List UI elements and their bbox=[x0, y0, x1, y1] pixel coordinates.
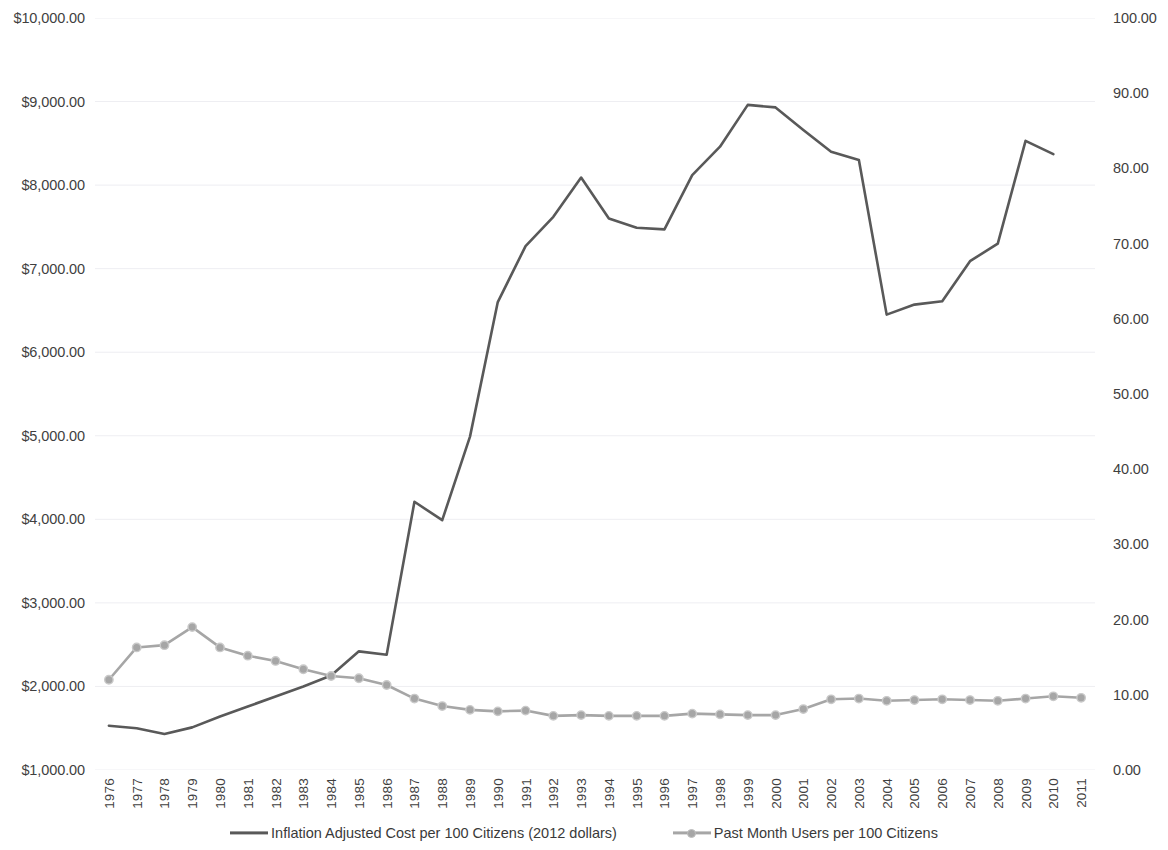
y-axis-right-tick-label: 20.00 bbox=[1113, 612, 1168, 628]
x-axis-tick-label: 1982 bbox=[269, 778, 284, 809]
x-axis-tick-label: 1981 bbox=[241, 778, 256, 809]
x-axis-tick-label: 2009 bbox=[1019, 778, 1034, 809]
data-point-marker bbox=[827, 695, 835, 703]
x-axis-tick-label: 1978 bbox=[157, 778, 172, 809]
x-axis-tick-label: 1989 bbox=[463, 778, 478, 809]
data-point-marker bbox=[521, 706, 529, 714]
series-lines bbox=[95, 18, 1095, 770]
x-axis-tick-label: 1992 bbox=[546, 778, 561, 809]
data-point-marker bbox=[105, 676, 113, 684]
y-axis-right-tick-label: 90.00 bbox=[1113, 85, 1168, 101]
y-axis-right-tick-label: 10.00 bbox=[1113, 687, 1168, 703]
data-point-marker bbox=[355, 674, 363, 682]
y-axis-left-tick-label: $8,000.00 bbox=[0, 177, 85, 193]
y-axis-right-tick-label: 100.00 bbox=[1113, 10, 1168, 26]
x-axis-tick-label: 2002 bbox=[824, 778, 839, 809]
data-point-marker bbox=[938, 695, 946, 703]
x-axis-tick-label: 2007 bbox=[963, 778, 978, 809]
legend-label: Inflation Adjusted Cost per 100 Citizens… bbox=[271, 826, 617, 841]
data-point-marker bbox=[688, 709, 696, 717]
data-point-marker bbox=[1021, 694, 1029, 702]
data-point-marker bbox=[882, 697, 890, 705]
x-axis-tick-label: 1988 bbox=[435, 778, 450, 809]
x-axis-tick-label: 1995 bbox=[630, 778, 645, 809]
data-point-marker bbox=[1049, 692, 1057, 700]
data-point-marker bbox=[188, 623, 196, 631]
x-axis-tick-label: 1983 bbox=[296, 778, 311, 809]
data-point-marker bbox=[605, 712, 613, 720]
series-line-0 bbox=[109, 105, 1053, 734]
legend-item-0[interactable]: Inflation Adjusted Cost per 100 Citizens… bbox=[230, 826, 617, 841]
x-axis-tick-label: 2004 bbox=[880, 778, 895, 809]
y-axis-left-tick-label: $9,000.00 bbox=[0, 94, 85, 110]
x-axis-tick-label: 1999 bbox=[741, 778, 756, 809]
data-point-marker bbox=[494, 707, 502, 715]
data-point-marker bbox=[632, 712, 640, 720]
y-axis-right-tick-label: 40.00 bbox=[1113, 461, 1168, 477]
x-axis-tick-label: 2003 bbox=[852, 778, 867, 809]
data-point-marker bbox=[160, 641, 168, 649]
chart-legend: Inflation Adjusted Cost per 100 Citizens… bbox=[0, 826, 1168, 841]
x-axis-tick-label: 1985 bbox=[352, 778, 367, 809]
y-axis-left-tick-label: $5,000.00 bbox=[0, 428, 85, 444]
data-point-marker bbox=[382, 681, 390, 689]
data-point-marker bbox=[438, 702, 446, 710]
x-axis-tick-label: 1980 bbox=[213, 778, 228, 809]
y-axis-left-tick-label: $6,000.00 bbox=[0, 344, 85, 360]
y-axis-left-tick-label: $10,000.00 bbox=[0, 10, 85, 26]
data-point-marker bbox=[132, 643, 140, 651]
data-point-marker bbox=[744, 711, 752, 719]
x-axis-tick-label: 1976 bbox=[102, 778, 117, 809]
x-axis-tick-label: 2005 bbox=[907, 778, 922, 809]
y-axis-left-tick-label: $3,000.00 bbox=[0, 595, 85, 611]
x-axis-tick-label: 2010 bbox=[1046, 778, 1061, 809]
data-point-marker bbox=[855, 694, 863, 702]
data-point-marker bbox=[660, 712, 668, 720]
y-axis-left-tick-label: $2,000.00 bbox=[0, 678, 85, 694]
legend-item-1[interactable]: Past Month Users per 100 Citizens bbox=[673, 826, 938, 841]
data-point-marker bbox=[716, 710, 724, 718]
y-axis-right-tick-label: 60.00 bbox=[1113, 311, 1168, 327]
legend-swatch-icon bbox=[230, 826, 268, 840]
y-axis-right-tick-label: 0.00 bbox=[1113, 762, 1168, 778]
data-point-marker bbox=[244, 651, 252, 659]
x-axis-tick-label: 2011 bbox=[1074, 778, 1089, 808]
x-axis-tick-label: 2001 bbox=[796, 778, 811, 809]
x-axis-tick-label: 1997 bbox=[685, 778, 700, 809]
chart-container: Inflation Adjusted Cost per 100 Citizens… bbox=[0, 0, 1168, 850]
data-point-marker bbox=[577, 711, 585, 719]
data-point-marker bbox=[910, 696, 918, 704]
data-point-marker bbox=[799, 705, 807, 713]
data-point-marker bbox=[466, 706, 474, 714]
x-axis-tick-label: 1990 bbox=[491, 778, 506, 809]
data-point-marker bbox=[994, 697, 1002, 705]
data-point-marker bbox=[410, 694, 418, 702]
y-axis-left-tick-label: $4,000.00 bbox=[0, 511, 85, 527]
y-axis-right-tick-label: 70.00 bbox=[1113, 236, 1168, 252]
data-point-marker bbox=[216, 643, 224, 651]
data-point-marker bbox=[327, 672, 335, 680]
x-axis-tick-label: 1979 bbox=[185, 778, 200, 809]
x-axis-tick-label: 1977 bbox=[130, 778, 145, 809]
data-point-marker bbox=[1077, 694, 1085, 702]
data-point-marker bbox=[549, 712, 557, 720]
x-axis-tick-label: 1987 bbox=[407, 778, 422, 809]
x-axis-tick-label: 2006 bbox=[935, 778, 950, 809]
x-axis-tick-label: 1984 bbox=[324, 778, 339, 809]
y-axis-right-tick-label: 50.00 bbox=[1113, 386, 1168, 402]
x-axis-tick-label: 2000 bbox=[769, 778, 784, 809]
x-axis-tick-label: 1998 bbox=[713, 778, 728, 809]
data-point-marker bbox=[271, 657, 279, 665]
y-axis-left-tick-label: $1,000.00 bbox=[0, 762, 85, 778]
x-axis-tick-label: 1991 bbox=[519, 778, 534, 809]
x-axis-tick-label: 1993 bbox=[574, 778, 589, 809]
x-axis-tick-label: 2008 bbox=[991, 778, 1006, 809]
x-axis-tick-label: 1996 bbox=[657, 778, 672, 809]
data-point-marker bbox=[771, 711, 779, 719]
x-axis-tick-label: 1994 bbox=[602, 778, 617, 809]
legend-swatch-icon bbox=[673, 826, 711, 840]
x-axis-tick-label: 1986 bbox=[380, 778, 395, 809]
series-line-1 bbox=[109, 627, 1081, 716]
y-axis-right-tick-label: 80.00 bbox=[1113, 160, 1168, 176]
y-axis-right-tick-label: 30.00 bbox=[1113, 536, 1168, 552]
